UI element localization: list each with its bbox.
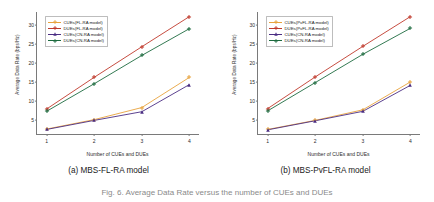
legend-swatch bbox=[48, 28, 61, 29]
data-point-marker bbox=[265, 128, 270, 133]
data-point-marker bbox=[187, 14, 192, 19]
legend-swatch bbox=[48, 40, 61, 41]
x-axis-label-b: Number of CUEs and DUEs bbox=[257, 151, 420, 157]
data-point-marker bbox=[265, 109, 270, 114]
legend-swatch bbox=[269, 28, 282, 29]
data-point-marker bbox=[313, 75, 318, 80]
x-tick-mark bbox=[362, 134, 363, 136]
data-point-marker bbox=[408, 26, 413, 31]
legend-label: CUEs(CN-RA model) bbox=[285, 32, 325, 37]
chart-panel-b: Average Data Rate (bps/Hz) 5101520253012… bbox=[217, 0, 434, 202]
data-point-marker bbox=[313, 118, 318, 123]
figure-caption: Fig. 6. Average Data Rate versus the num… bbox=[0, 188, 434, 197]
data-point-marker bbox=[361, 52, 366, 57]
legend-item[interactable]: DUEs(CN-RA model) bbox=[269, 38, 329, 44]
y-axis-label-a: Average Data Rate (bps/Hz) bbox=[15, 17, 20, 113]
legend-label: CUEs(PvFL-RA model) bbox=[285, 20, 329, 25]
x-tick-mark bbox=[267, 134, 268, 136]
x-tick-mark bbox=[315, 134, 316, 136]
series-line bbox=[268, 82, 411, 130]
legend-label: DUEs(CN-RA model) bbox=[285, 38, 325, 43]
plot-area-b: Average Data Rate (bps/Hz) 5101520253012… bbox=[217, 4, 434, 162]
legend-label: DUEs(PvFL-RA model) bbox=[285, 26, 329, 31]
legend-a: CUEs(FL-RA model)DUEs(FL-RA model)CUEs(C… bbox=[45, 16, 108, 47]
legend-label: DUEs(CN-RA model) bbox=[64, 38, 104, 43]
legend-swatch bbox=[48, 34, 61, 35]
legend-swatch bbox=[269, 40, 282, 41]
x-tick-mark bbox=[46, 134, 47, 136]
legend-swatch bbox=[48, 22, 61, 23]
x-tick-mark bbox=[410, 134, 411, 136]
legend-item[interactable]: DUEs(CN-RA model) bbox=[48, 38, 104, 44]
data-point-marker bbox=[140, 44, 145, 49]
data-point-marker bbox=[187, 82, 192, 87]
data-point-marker bbox=[408, 83, 413, 88]
data-point-marker bbox=[44, 109, 49, 114]
data-point-marker bbox=[92, 81, 97, 86]
data-point-marker bbox=[140, 53, 145, 58]
data-point-marker bbox=[187, 75, 192, 80]
series-line bbox=[268, 85, 411, 130]
panel-caption-a: (a) MBS-FL-RA model bbox=[0, 166, 217, 175]
panel-caption-b: (b) MBS-PvFL-RA model bbox=[217, 166, 434, 175]
x-tick-mark bbox=[141, 134, 142, 136]
data-point-marker bbox=[44, 127, 49, 132]
legend-label: DUEs(FL-RA model) bbox=[64, 26, 103, 31]
data-point-marker bbox=[361, 44, 366, 49]
chart-panel-a: Average Data Rate (bps/Hz) 5101520253012… bbox=[0, 0, 217, 202]
x-axis-label-a: Number of CUEs and DUEs bbox=[36, 151, 199, 157]
x-tick-mark bbox=[94, 134, 95, 136]
data-point-marker bbox=[92, 75, 97, 80]
legend-swatch bbox=[269, 34, 282, 35]
legend-swatch bbox=[269, 22, 282, 23]
data-point-marker bbox=[313, 80, 318, 85]
data-point-marker bbox=[92, 118, 97, 123]
data-point-marker bbox=[187, 26, 192, 31]
legend-b: CUEs(PvFL-RA model)DUEs(PvFL-RA model)CU… bbox=[266, 16, 333, 47]
y-axis-label-b: Average Data Rate (bps/Hz) bbox=[232, 17, 237, 113]
legend-label: CUEs(CN-RA model) bbox=[64, 32, 104, 37]
x-tick-mark bbox=[189, 134, 190, 136]
figure-container: Average Data Rate (bps/Hz) 5101520253012… bbox=[0, 0, 434, 202]
data-point-marker bbox=[361, 109, 366, 114]
plot-area-a: Average Data Rate (bps/Hz) 5101520253012… bbox=[0, 4, 217, 162]
legend-label: CUEs(FL-RA model) bbox=[64, 20, 103, 25]
series-line bbox=[47, 77, 190, 129]
data-point-marker bbox=[408, 14, 413, 19]
data-point-marker bbox=[140, 109, 145, 114]
